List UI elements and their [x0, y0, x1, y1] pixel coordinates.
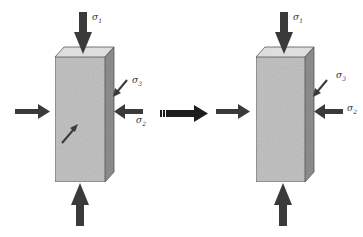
left-block-side-face — [105, 47, 114, 182]
right-specimen — [216, 12, 343, 226]
right-sigma1-label: σ1 — [293, 13, 303, 24]
right-sigma1-bottom-arrow-icon — [274, 183, 292, 226]
right-block-front-face — [256, 57, 305, 182]
left-sigma2-label: σ2 — [136, 116, 146, 127]
left-block-front-face — [55, 57, 105, 182]
triaxial-stress-diagram — [0, 0, 363, 237]
right-sigma3-side-arrow-icon — [313, 80, 327, 97]
right-block-side-face — [305, 47, 314, 182]
right-sigma2-right-arrow-icon — [314, 104, 343, 119]
left-sigma1-label: σ1 — [92, 13, 102, 24]
right-sigma3-label: σ3 — [336, 71, 346, 82]
right-sigma2-left-arrow-icon — [216, 104, 250, 119]
left-specimen — [15, 12, 143, 226]
left-sigma1-bottom-arrow-icon — [71, 183, 89, 226]
transition-arrow-icon — [160, 105, 208, 122]
left-sigma3-label: σ3 — [132, 76, 142, 87]
left-sigma3-side-arrow-icon — [113, 80, 127, 97]
left-sigma2-left-arrow-icon — [15, 104, 50, 119]
right-sigma2-label: σ2 — [347, 104, 357, 115]
